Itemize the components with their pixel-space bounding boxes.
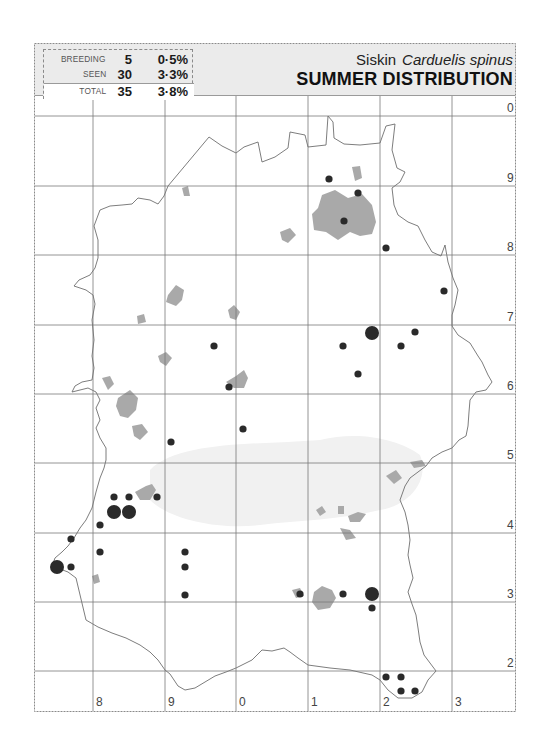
total-percent: 3·8% <box>158 84 188 99</box>
seen-record-dot <box>382 673 389 680</box>
x-label-1: 1 <box>311 695 318 709</box>
seen-label: SEEN <box>83 69 106 79</box>
breeding-record-dot <box>365 326 379 340</box>
y-label-2: 2 <box>507 656 514 670</box>
seen-record-dot <box>368 604 375 611</box>
seen-record-dot <box>210 342 217 349</box>
stats-box: BREEDING 5 0·5% SEEN 30 3·3% TOTAL 35 3·… <box>43 49 193 99</box>
seen-record-dot <box>354 189 361 196</box>
y-label-0: 0 <box>507 101 514 115</box>
breeding-count: 5 <box>125 52 132 67</box>
seen-record-dot <box>125 493 132 500</box>
map-subtitle: SUMMER DISTRIBUTION <box>296 69 513 90</box>
y-label-8: 8 <box>507 240 514 254</box>
y-label-4: 4 <box>507 518 514 532</box>
seen-record-dot <box>397 342 404 349</box>
seen-record-dot <box>397 673 404 680</box>
seen-percent: 3·3% <box>158 67 188 82</box>
x-label-8: 8 <box>96 695 103 709</box>
seen-record-dot <box>325 175 332 182</box>
distribution-map <box>0 0 548 741</box>
breeding-label: BREEDING <box>61 54 106 64</box>
y-label-9: 9 <box>507 171 514 185</box>
breeding-record-dot <box>107 505 121 519</box>
x-label-0: 0 <box>239 695 246 709</box>
seen-record-dot <box>110 493 117 500</box>
seen-record-dot <box>354 370 361 377</box>
total-count: 35 <box>118 84 132 99</box>
seen-record-dot <box>339 342 346 349</box>
seen-record-dot <box>382 244 389 251</box>
breeding-record-dot <box>365 587 379 601</box>
map-title: SiskinCarduelis spinus SUMMER DISTRIBUTI… <box>296 51 513 90</box>
y-label-6: 6 <box>507 379 514 393</box>
seen-record-dot <box>397 687 404 694</box>
y-label-7: 7 <box>507 310 514 324</box>
seen-record-dot <box>440 287 447 294</box>
seen-record-dot <box>296 590 303 597</box>
seen-record-dot <box>153 493 160 500</box>
seen-record-dot <box>181 548 188 555</box>
breeding-percent: 0·5% <box>158 52 188 67</box>
x-label-9: 9 <box>168 695 175 709</box>
seen-record-dot <box>67 535 74 542</box>
species-name: SiskinCarduelis spinus <box>296 51 513 68</box>
seen-record-dot <box>167 438 174 445</box>
y-label-5: 5 <box>507 448 514 462</box>
breeding-record-dot <box>122 505 136 519</box>
seen-record-dot <box>339 590 346 597</box>
seen-record-dot <box>340 217 347 224</box>
total-label: TOTAL <box>79 86 106 96</box>
seen-record-dot <box>411 687 418 694</box>
stats-row-breeding: BREEDING 5 0·5% <box>44 52 194 68</box>
stats-row-total: TOTAL 35 3·8% <box>44 83 194 100</box>
seen-record-dot <box>181 563 188 570</box>
seen-record-dot <box>239 425 246 432</box>
stats-row-seen: SEEN 30 3·3% <box>44 67 194 83</box>
seen-record-dot <box>181 591 188 598</box>
y-label-3: 3 <box>507 587 514 601</box>
seen-record-dot <box>225 383 232 390</box>
seen-count: 30 <box>118 67 132 82</box>
x-label-3: 3 <box>455 695 462 709</box>
seen-record-dot <box>96 521 103 528</box>
breeding-record-dot <box>50 560 64 574</box>
x-label-2: 2 <box>383 695 390 709</box>
common-name: Siskin <box>356 51 396 68</box>
seen-record-dot <box>67 563 74 570</box>
seen-record-dot <box>96 548 103 555</box>
urban-patch <box>338 506 344 514</box>
scientific-name: Carduelis spinus <box>402 51 513 68</box>
seen-record-dot <box>411 328 418 335</box>
